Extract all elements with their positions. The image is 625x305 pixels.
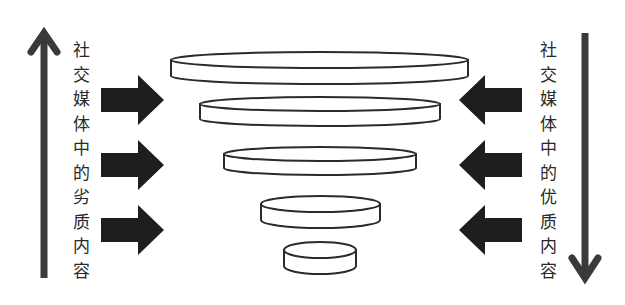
- funnel-diagram: [0, 0, 625, 305]
- funnel-discs: [171, 52, 468, 274]
- label-char: 媒: [73, 87, 90, 112]
- label-char: 体: [540, 112, 557, 137]
- label-char: 交: [73, 63, 90, 88]
- funnel-disc-1: [171, 52, 468, 84]
- label-char: 容: [540, 259, 557, 284]
- label-char: 社: [540, 38, 557, 63]
- label-char: 体: [73, 112, 90, 137]
- label-char: 质: [73, 210, 90, 235]
- funnel-disc-5: [284, 242, 356, 274]
- label-char: 媒: [540, 87, 557, 112]
- down-arrow-icon: [572, 33, 598, 278]
- label-char: 内: [540, 234, 557, 259]
- up-arrow-icon: [31, 33, 57, 278]
- label-char: 的: [73, 161, 90, 186]
- label-char: 劣: [73, 185, 90, 210]
- label-char: 中: [73, 136, 90, 161]
- label-char: 内: [73, 234, 90, 259]
- right-arrow-icon: [101, 140, 164, 190]
- left-arrow-icon: [459, 140, 522, 190]
- left-arrow-icon: [459, 75, 522, 125]
- left-block-arrows: [459, 75, 522, 255]
- right-arrow-icon: [101, 205, 164, 255]
- label-char: 容: [73, 259, 90, 284]
- label-char: 社: [73, 38, 90, 63]
- label-char: 交: [540, 63, 557, 88]
- funnel-disc-3: [224, 147, 416, 175]
- right-label-quality-content: 社交媒体中的优质内容: [537, 38, 559, 283]
- right-block-arrows: [101, 75, 164, 255]
- left-arrow-icon: [459, 205, 522, 255]
- label-char: 质: [540, 210, 557, 235]
- label-char: 的: [540, 161, 557, 186]
- label-char: 优: [540, 185, 557, 210]
- funnel-disc-4: [261, 196, 380, 228]
- left-label-poor-content: 社交媒体中的劣质内容: [70, 38, 92, 283]
- right-arrow-icon: [101, 75, 164, 125]
- label-char: 中: [540, 136, 557, 161]
- funnel-disc-2: [200, 97, 440, 126]
